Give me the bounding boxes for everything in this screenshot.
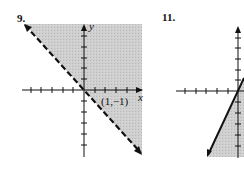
graph-9 [22,24,143,157]
point-label: (1,−1) [101,95,128,107]
y-axis-label-9: y [89,20,94,32]
graph-11 [176,26,244,158]
problem-number-11: 11. [162,11,175,23]
x-axis-label-9: x [138,91,143,103]
figure-canvas [0,0,244,170]
problem-number-9: 9. [17,12,25,24]
y-arrow-icon [235,26,241,33]
